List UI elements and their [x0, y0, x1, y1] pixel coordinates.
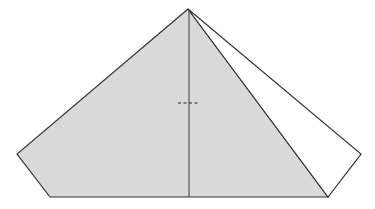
pyramid-diagram	[0, 0, 375, 209]
